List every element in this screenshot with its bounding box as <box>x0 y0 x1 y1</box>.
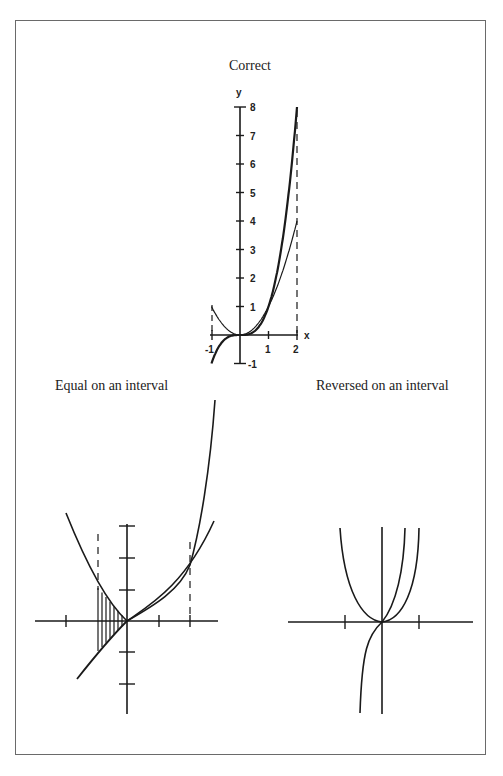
left-curve-steep <box>127 400 215 621</box>
svg-text:2: 2 <box>293 344 299 355</box>
right-curve-parabola <box>340 528 419 622</box>
svg-text:-1: -1 <box>248 359 257 370</box>
svg-text:3: 3 <box>250 245 256 256</box>
top-curve-x-cubed <box>212 107 298 364</box>
right-plot <box>288 527 473 714</box>
svg-text:1: 1 <box>265 344 271 355</box>
left-plot <box>35 400 218 714</box>
svg-text:2: 2 <box>250 273 256 284</box>
svg-text:4: 4 <box>250 216 256 227</box>
top-x-axis-label: x <box>304 330 310 341</box>
svg-text:1: 1 <box>250 302 256 313</box>
svg-text:7: 7 <box>250 131 256 142</box>
svg-text:6: 6 <box>250 159 256 170</box>
top-plot <box>210 107 298 364</box>
diagram-canvas: y x 8 7 6 5 4 3 2 1 -1 -1 1 2 <box>0 0 503 776</box>
left-hatched-region <box>98 588 122 651</box>
svg-text:5: 5 <box>250 188 256 199</box>
svg-text:8: 8 <box>250 102 256 113</box>
top-y-axis-label: y <box>236 87 242 98</box>
svg-text:-1: -1 <box>205 344 214 355</box>
left-curve-parabola <box>66 513 214 621</box>
